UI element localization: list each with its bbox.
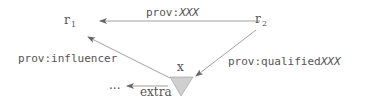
node-r1-subscript: 1 [71, 20, 76, 29]
node-r2-label: r [255, 12, 261, 26]
edge-qualified-label: prov:qualifiedXXX [228, 55, 342, 68]
ellipsis-node: ... [109, 78, 120, 92]
edge-x-to-r1: prov:influencer [18, 37, 170, 78]
triangle-icon [170, 77, 193, 96]
node-x-label: x [177, 60, 184, 74]
node-r1-label: r [64, 13, 70, 27]
node-x: x [170, 60, 193, 96]
edge-x-to-extra: extra ... [109, 78, 172, 99]
arrow-line [196, 30, 256, 76]
edge-influencer-label: prov:influencer [18, 52, 118, 65]
edge-r2-to-x: prov:qualifiedXXX [196, 30, 342, 76]
edge-r2-to-r1-label: prov:XXX [146, 6, 200, 19]
edge-extra-label: extra [140, 85, 172, 99]
edge-r2-to-r1: prov:XXX [100, 6, 260, 21]
node-r2: r 2 [255, 12, 267, 28]
provenance-diagram: r 1 r 2 prov:XXX prov:influencer prov:qu… [0, 0, 367, 100]
node-r2-subscript: 2 [262, 19, 267, 28]
node-r1: r 1 [64, 13, 76, 29]
